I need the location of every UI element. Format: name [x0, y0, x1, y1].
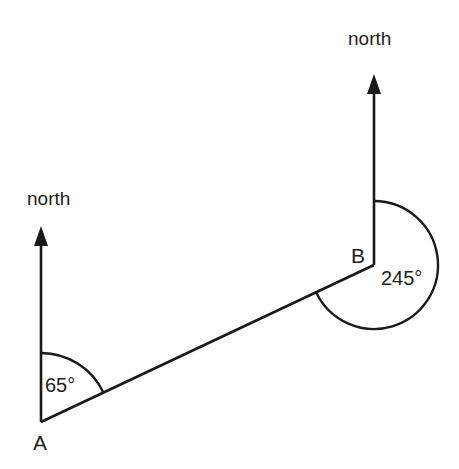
north-arrowhead-a-icon [34, 226, 48, 246]
angle-arc-at-b [316, 201, 438, 329]
bearings-diagram-svg: north north A B 65° 245° [0, 0, 459, 469]
north-label-b: north [348, 28, 391, 49]
north-label-a: north [27, 188, 70, 209]
angle-label-at-a: 65° [45, 374, 75, 396]
north-arrowhead-b-icon [367, 74, 381, 94]
line-segment-a-to-b [41, 265, 374, 422]
north-arrow-b-group [367, 74, 381, 265]
point-label-b: B [351, 244, 365, 267]
angle-label-at-b: 245° [381, 267, 422, 289]
point-label-a: A [33, 431, 47, 454]
bearings-diagram-canvas: north north A B 65° 245° [0, 0, 459, 469]
